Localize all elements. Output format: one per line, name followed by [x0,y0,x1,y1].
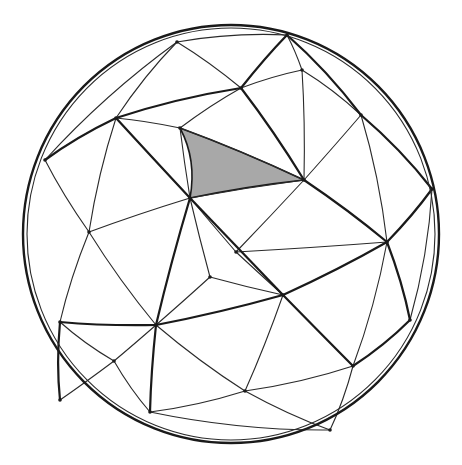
edge-thin [60,322,114,361]
edge-thin [177,34,287,42]
edge-thick [116,118,190,198]
geodesic-sphere-figure [0,0,462,465]
vertex-point [178,126,182,130]
edge-thin [330,366,353,430]
edge-thin [45,42,177,160]
vertex-point [300,68,304,72]
vertex-point [351,364,355,368]
edge-thin [60,232,89,322]
vertex-point [43,158,47,162]
edge-thin [241,70,302,88]
vertex-point [148,410,152,414]
edge-thin [89,232,156,325]
edge-thick [283,295,353,366]
vertex-point [208,275,212,279]
edge-thick [190,198,283,295]
edge-thin [156,277,210,325]
edge-thin [45,160,89,232]
vertex-point [385,240,389,244]
edge-thin [245,366,353,391]
edge-thick [387,189,432,242]
vertex-point [112,359,116,363]
edge-thin [236,242,387,252]
edge-thick [387,242,410,320]
edge-thin [89,198,190,232]
vertex-point [408,318,412,322]
edge-thin [302,70,361,115]
shaded-triangle [180,128,304,198]
vertex-point [243,389,247,393]
edge-thin [177,42,241,88]
vertex-point [87,230,91,234]
geodesic-sphere-diagram [0,0,462,465]
vertex-point [359,113,363,117]
vertex-point [234,250,238,254]
vertex-point [285,33,289,37]
edge-thin [245,295,283,391]
edge-thin [114,361,150,412]
edge-thin [116,118,180,128]
thick-edges [45,35,432,412]
edge-thin [156,325,245,391]
vertex-point [430,187,434,191]
edge-thick [116,88,241,118]
vertex-point [114,116,118,120]
vertex-point [281,293,285,297]
edge-thick [156,295,283,325]
edge-thick [283,242,387,295]
edge-thin [236,180,304,252]
edge-thin [150,391,245,412]
edge-thick [58,322,60,400]
edge-thin [353,242,387,366]
vertex-point [58,320,62,324]
vertex-point [188,196,192,200]
vertex-point [239,86,243,90]
edge-thin [304,115,361,180]
shaded-face [180,128,304,198]
edge-thick [60,322,156,325]
vertex-point [175,40,179,44]
vertex-point [58,398,62,402]
vertex-point [154,323,158,327]
vertex-point [302,178,306,182]
edge-thin [114,325,156,361]
edge-thin [89,118,116,232]
edge-thin [302,70,304,180]
edge-thick [304,180,387,242]
edge-thick [150,325,156,412]
edge-thin [210,277,283,295]
vertex-point [328,428,332,432]
edge-thick [156,198,190,325]
